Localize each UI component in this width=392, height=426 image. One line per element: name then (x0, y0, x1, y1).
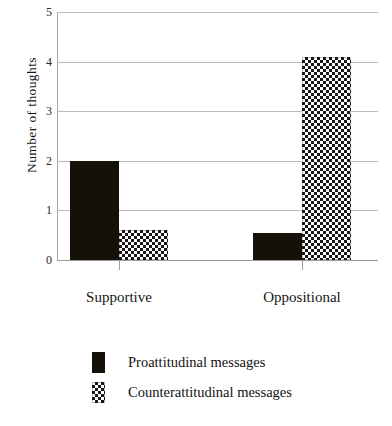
x-axis-category-labels: Supportive Oppositional (57, 288, 378, 312)
bar-oppositional-counterattitudinal (302, 57, 351, 260)
gridline-5 (57, 12, 378, 13)
x-axis-ticks (57, 261, 378, 271)
legend-entry-counterattitudinal: Counterattitudinal messages (92, 380, 362, 410)
y-tick-label-0: 0 (30, 254, 52, 266)
legend-label-counterattitudinal: Counterattitudinal messages (128, 382, 292, 402)
bar-supportive-proattitudinal (70, 161, 119, 260)
category-label-supportive: Supportive (59, 288, 179, 306)
legend-entry-proattitudinal: Proattitudinal messages (92, 350, 362, 380)
bar-oppositional-proattitudinal (253, 233, 302, 260)
chart-legend: Proattitudinal messages Counterattitudin… (92, 350, 362, 410)
x-tick-oppositional (302, 261, 303, 270)
category-label-oppositional: Oppositional (242, 288, 362, 306)
legend-swatch-checkered-icon (92, 382, 105, 403)
x-tick-supportive (119, 261, 120, 270)
bar-supportive-counterattitudinal (119, 230, 168, 260)
y-tick-label-1: 1 (30, 204, 52, 216)
bar-chart-figure: 5 4 3 2 1 0 Number of thoughts Supportiv… (0, 0, 392, 426)
y-axis-title: Number of thoughts (24, 30, 40, 200)
y-tick-label-5: 5 (30, 6, 52, 18)
legend-swatch-solid-black-icon (92, 352, 105, 373)
legend-label-proattitudinal: Proattitudinal messages (128, 352, 265, 372)
plot-area (57, 12, 378, 260)
